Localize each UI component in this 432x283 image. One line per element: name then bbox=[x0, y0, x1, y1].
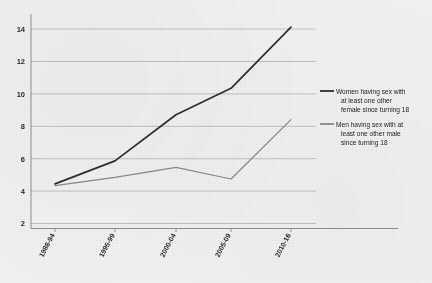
legend-label-women-line1: Women having sex with bbox=[336, 88, 406, 96]
y-tick-label-2: 2 bbox=[21, 219, 25, 228]
y-tick-label-6: 6 bbox=[21, 155, 25, 164]
y-tick-label-8: 8 bbox=[21, 122, 25, 131]
line-chart: 14 12 10 8 6 4 2 1988-94 1995-99 2000-04… bbox=[0, 0, 432, 283]
y-tick-label-10: 10 bbox=[17, 90, 25, 99]
legend-label-women-line3: female since turning 18 bbox=[341, 106, 410, 114]
legend-label-men-line1: Men having sex with at bbox=[336, 121, 403, 129]
legend-label-women-line2: at least one other bbox=[341, 97, 393, 104]
legend-label-men-line3: since turning 18 bbox=[341, 139, 388, 147]
y-tick-label-12: 12 bbox=[17, 57, 25, 66]
legend-label-men-line2: least one other male bbox=[341, 130, 401, 137]
y-tick-label-14: 14 bbox=[17, 25, 26, 34]
